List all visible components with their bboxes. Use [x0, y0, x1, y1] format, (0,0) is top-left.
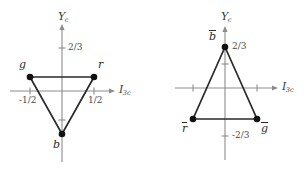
x-tick-label-minus-half: -1/2 — [19, 96, 37, 105]
point-b-bar-dot — [222, 44, 229, 51]
y-axis-arrowhead — [59, 24, 64, 30]
point-label-r-bar: r — [182, 123, 187, 134]
point-label-b-bar: b — [209, 31, 216, 42]
x-axis-label-subscript: 3c — [286, 86, 294, 94]
overbar-g — [261, 122, 267, 123]
y-axis-label-subscript: c — [228, 16, 232, 24]
y-axis-label-subscript: c — [65, 16, 69, 24]
point-label-g-bar: g — [261, 123, 268, 134]
figure-canvas: Yc I3c 2/3 -1/2 1/2 g r b — [0, 0, 306, 170]
x-axis-label-subscript: 3c — [123, 89, 131, 97]
overbar-b — [209, 30, 215, 31]
y-tick-label-two-thirds: 2/3 — [232, 42, 246, 51]
point-label-r: r — [98, 59, 103, 70]
point-b-dot — [59, 131, 66, 138]
point-r-dot — [91, 74, 98, 81]
y-axis-label: Yc — [58, 11, 69, 22]
point-label-b: b — [53, 139, 60, 150]
point-g-bar-dot — [254, 116, 261, 123]
y-axis-label: Yc — [221, 11, 232, 22]
overbar-r — [182, 122, 187, 123]
point-label-g: g — [19, 59, 26, 70]
antiquark-weight-diagram: Yc I3c 2/3 -2/3 b r g — [153, 0, 306, 170]
quark-weight-diagram: Yc I3c 2/3 -1/2 1/2 g r b — [0, 0, 153, 170]
x-axis-label: I3c — [119, 84, 131, 95]
point-g-dot — [27, 74, 34, 81]
y-tick-label-minus-two-thirds: -2/3 — [232, 131, 250, 140]
x-tick-label-plus-half: 1/2 — [88, 96, 102, 105]
y-tick-label-two-thirds: 2/3 — [68, 43, 82, 52]
x-axis-arrowhead — [109, 88, 115, 93]
y-axis-arrowhead — [222, 26, 227, 32]
point-r-bar-dot — [190, 116, 197, 123]
x-axis-arrowhead — [272, 85, 278, 90]
x-axis-label: I3c — [282, 81, 294, 92]
